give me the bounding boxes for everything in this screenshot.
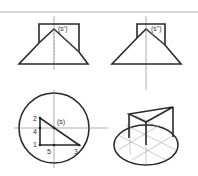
side-pyramid-outline	[112, 29, 181, 64]
point-3-label: 3	[74, 148, 78, 155]
point-s-label: (s)	[57, 118, 65, 126]
projection-diagram: (s') (s") 2 4 1 5 3 (s)	[0, 0, 198, 176]
point-3-marker	[78, 144, 81, 147]
top-view: 2 4 1 5 3 (s)	[14, 90, 108, 168]
iso-view	[114, 107, 178, 165]
front-view: (s')	[19, 16, 88, 70]
point-5-label: 5	[47, 148, 51, 155]
iso-top-face	[129, 107, 173, 122]
point-2-label: 2	[33, 115, 37, 122]
point-s-marker	[53, 127, 56, 130]
point-4-label: 4	[33, 128, 37, 135]
point-1-marker	[39, 144, 42, 147]
side-apex-label: (s")	[151, 25, 162, 33]
front-pyramid-outline	[19, 29, 88, 64]
point-5-marker	[53, 144, 56, 147]
iso-grid-line	[118, 135, 166, 160]
point-2-marker	[39, 117, 42, 120]
point-1-label: 1	[33, 141, 37, 148]
iso-grid-line	[126, 125, 176, 150]
front-apex-label: (s')	[58, 25, 68, 33]
point-4-marker	[39, 127, 42, 130]
side-view: (s")	[112, 16, 181, 90]
iso-grid-line	[118, 125, 160, 150]
